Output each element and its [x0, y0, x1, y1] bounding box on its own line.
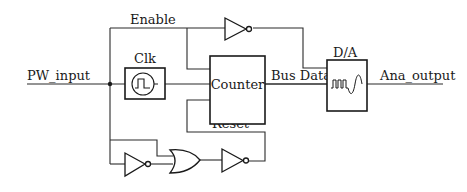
circuit-diagram: PW_input Enable Bus Data Ana_output Rese… — [0, 0, 467, 192]
reset-inverter-gate — [222, 149, 249, 172]
or-upper-input-wire — [110, 140, 173, 156]
junction-dot — [108, 82, 112, 86]
input-inverter-gate — [125, 153, 151, 176]
clock-label: Clk — [134, 51, 156, 66]
enable-to-counter-wire — [187, 28, 210, 69]
enable-label: Enable — [130, 12, 176, 27]
counter-block: Counter — [210, 56, 265, 124]
dac-label: D/A — [333, 45, 358, 60]
counter-label: Counter — [211, 77, 265, 92]
pw-input-label: PW_input — [27, 68, 91, 83]
ana-output-label: Ana_output — [379, 68, 456, 83]
dac-block: D/A — [327, 45, 367, 111]
bus-data-label: Bus Data — [271, 68, 331, 83]
enable-inverter-gate — [225, 18, 252, 40]
reset-or-gate — [170, 150, 200, 173]
clock-block: Clk — [125, 51, 165, 99]
